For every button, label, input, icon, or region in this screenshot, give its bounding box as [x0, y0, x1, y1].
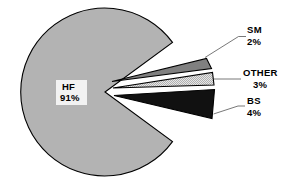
pie-label-other-name: OTHER — [243, 67, 278, 78]
pie-label-bs-name: BS — [247, 95, 261, 106]
pie-label-hf-name: HF — [62, 81, 75, 92]
pie-label-bs-value: 4% — [247, 107, 262, 118]
pie-label-sm-value: 2% — [247, 36, 262, 47]
pie-chart-canvas: HF 91% SM 2% OTHER 3% BS 4% — [0, 0, 293, 184]
pie-chart-figure: HF 91% SM 2% OTHER 3% BS 4% — [0, 0, 293, 184]
pie-label-hf-value: 91% — [60, 92, 80, 103]
pie-label-other-value: 3% — [253, 79, 268, 90]
pie-label-sm-name: SM — [247, 24, 262, 35]
